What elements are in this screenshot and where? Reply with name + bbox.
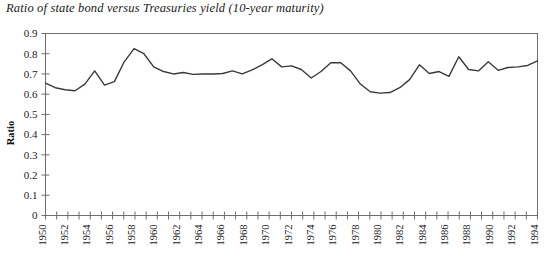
y-tick-label: 0.2 (24, 169, 38, 181)
x-tick-label: 1982 (394, 225, 405, 246)
y-tick-label: 0 (32, 209, 38, 221)
x-tick-label: 1952 (59, 225, 70, 246)
data-series-line (46, 49, 538, 93)
x-tick-label: 1992 (506, 225, 517, 246)
chart-page: Ratio of state bond versus Treasuries yi… (0, 0, 556, 257)
y-tick-label: 0.9 (24, 27, 38, 39)
y-tick-label: 0.5 (24, 108, 38, 120)
y-tick-label: 0.1 (24, 189, 38, 201)
x-tick-label: 1954 (81, 224, 92, 246)
y-tick-label: 0.3 (24, 149, 38, 161)
x-tick-label: 1970 (260, 225, 271, 246)
x-tick-label: 1994 (529, 224, 540, 246)
x-tick-label: 1968 (238, 224, 249, 245)
x-tick-label: 1956 (104, 225, 115, 246)
x-tick-label: 1990 (484, 224, 495, 245)
x-tick-label: 1980 (372, 225, 383, 246)
x-tick-label: 1950 (37, 225, 48, 246)
x-tick-label: 1972 (283, 225, 294, 246)
x-axis-tick-labels: 1950195219541956195819601962196419661968… (37, 224, 540, 246)
x-tick-label: 1966 (215, 225, 226, 246)
x-tick-label: 1958 (126, 225, 137, 246)
y-axis-tick-labels: 00.10.20.30.40.50.60.70.80.9 (24, 27, 38, 221)
y-tick-label: 0.4 (24, 128, 38, 140)
y-tick-label: 0.6 (24, 88, 38, 100)
y-tick-label: 0.7 (24, 68, 38, 80)
y-axis-title: Ratio (5, 121, 16, 146)
x-tick-label: 1974 (305, 224, 316, 246)
x-tick-label: 1964 (193, 224, 204, 246)
line-chart-plot: 00.10.20.30.40.50.60.70.80.9 19501952195… (0, 0, 556, 257)
x-tick-label: 1960 (148, 225, 159, 246)
x-tick-label: 1988 (461, 225, 472, 246)
x-tick-label: 1976 (327, 225, 338, 246)
x-tick-label: 1962 (171, 225, 182, 246)
x-tick-label: 1984 (417, 224, 428, 246)
y-tick-label: 0.8 (24, 48, 38, 60)
x-tick-label: 1978 (350, 225, 361, 246)
x-tick-label: 1986 (439, 225, 450, 246)
axis-frame (46, 33, 539, 216)
